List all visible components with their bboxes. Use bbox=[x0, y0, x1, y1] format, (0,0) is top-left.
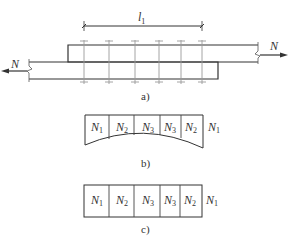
cell-b-4: N3 bbox=[163, 120, 176, 135]
top-plate bbox=[68, 45, 258, 62]
dimension-label: l1 bbox=[138, 10, 145, 26]
cell-b-2: N2 bbox=[115, 120, 128, 135]
outer-label-b: N1 bbox=[207, 120, 220, 135]
outer-label-c: N1 bbox=[205, 193, 218, 208]
panel-a: l1 bbox=[1, 10, 288, 103]
cell-b-1: N1 bbox=[90, 120, 103, 135]
svg-text:N: N bbox=[10, 57, 20, 71]
panel-c: N1 N2 N3 N3 N2 N1 c) bbox=[84, 185, 218, 236]
caption-b: b) bbox=[141, 157, 151, 170]
cell-c-4: N3 bbox=[163, 193, 176, 208]
svg-text:N: N bbox=[269, 39, 279, 53]
cell-c-3: N3 bbox=[141, 193, 154, 208]
caption-a: a) bbox=[141, 90, 150, 103]
panel-b: N1 N2 N3 N3 N2 N1 b) bbox=[85, 115, 220, 170]
dimension-line-l1: l1 bbox=[82, 10, 204, 31]
cell-b-5: N2 bbox=[184, 120, 197, 135]
cell-c-1: N1 bbox=[90, 193, 103, 208]
cell-c-5: N2 bbox=[183, 193, 196, 208]
bolted-lap-joint-diagram: l1 bbox=[0, 0, 296, 236]
bottom-plate bbox=[29, 62, 218, 79]
caption-c: c) bbox=[141, 223, 150, 236]
cell-c-2: N2 bbox=[115, 193, 128, 208]
cell-b-3: N3 bbox=[141, 120, 154, 135]
left-force-arrow: N bbox=[1, 57, 27, 74]
right-force-arrow: N bbox=[260, 39, 288, 58]
